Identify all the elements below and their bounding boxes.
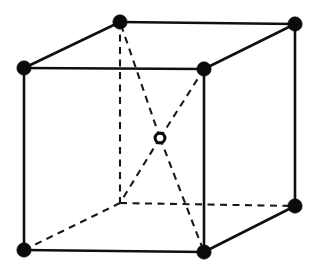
diagonal-center-back-top-left [120, 22, 160, 138]
edge-bottom-left-depth [24, 203, 120, 250]
center-atom-body-center [155, 133, 165, 143]
corner-atom-back-bottom-right [288, 199, 302, 213]
corner-atom-front-top-left [17, 61, 31, 75]
corner-atom-front-bottom-right [197, 245, 211, 259]
center-atom-group [155, 133, 165, 143]
edge-back-bottom [120, 203, 295, 206]
bcc-unit-cell-figure [0, 0, 314, 274]
edge-back-top [120, 22, 295, 24]
edge-front-top [24, 68, 204, 69]
diagonal-center-back-bottom-left [120, 138, 160, 203]
diagonal-center-front-top-right [160, 69, 204, 138]
edge-top-left-depth [24, 22, 120, 68]
diagonal-center-front-bottom-right [160, 138, 204, 252]
corner-atom-front-top-right [197, 62, 211, 76]
corner-atom-back-top-right [288, 17, 302, 31]
edge-front-bottom [24, 250, 204, 252]
edge-bottom-right-depth [204, 206, 295, 252]
lattice-diagram-canvas [0, 0, 314, 274]
edge-top-right-depth [204, 24, 295, 69]
corner-atom-back-top-left [113, 15, 127, 29]
corner-atom-front-bottom-left [17, 243, 31, 257]
